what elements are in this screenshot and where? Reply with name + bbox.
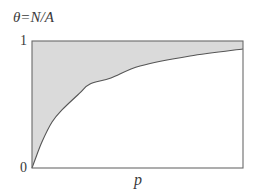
y-tick-max: 1 [20,34,27,48]
x-axis-label: p [134,172,142,188]
y-axis-title: θ=N/A [13,10,54,25]
shaded-area [32,41,243,168]
y-tick-min: 0 [20,161,27,175]
isotherm-chart [0,0,258,195]
